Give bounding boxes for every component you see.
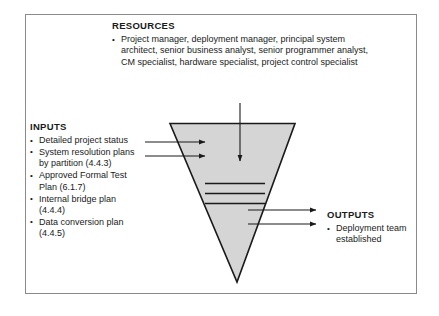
resources-list: Project manager, deployment manager, pri… <box>112 34 374 68</box>
outputs-heading: OUTPUTS <box>327 209 419 220</box>
list-item: Approved Formal Test Plan (6.1.7) <box>30 170 142 193</box>
list-item: Deployment team established <box>327 223 419 246</box>
resources-block: RESOURCES Project manager, deployment ma… <box>112 20 374 69</box>
outputs-list: Deployment team established <box>327 223 419 246</box>
inputs-heading: INPUTS <box>30 121 142 132</box>
list-item: Internal bridge plan (4.4.4) <box>30 194 142 217</box>
list-item: Data conversion plan (4.4.5) <box>30 217 142 240</box>
inputs-list: Detailed project status System resolutio… <box>30 135 142 240</box>
diagram-canvas: RESOURCES Project manager, deployment ma… <box>0 0 439 316</box>
inputs-block: INPUTS Detailed project status System re… <box>30 121 142 240</box>
outputs-block: OUTPUTS Deployment team established <box>327 209 419 246</box>
resources-heading: RESOURCES <box>112 20 374 31</box>
list-item: Project manager, deployment manager, pri… <box>112 34 374 68</box>
list-item: Detailed project status <box>30 135 142 146</box>
list-item: System resolution plans by partition (4.… <box>30 147 142 170</box>
